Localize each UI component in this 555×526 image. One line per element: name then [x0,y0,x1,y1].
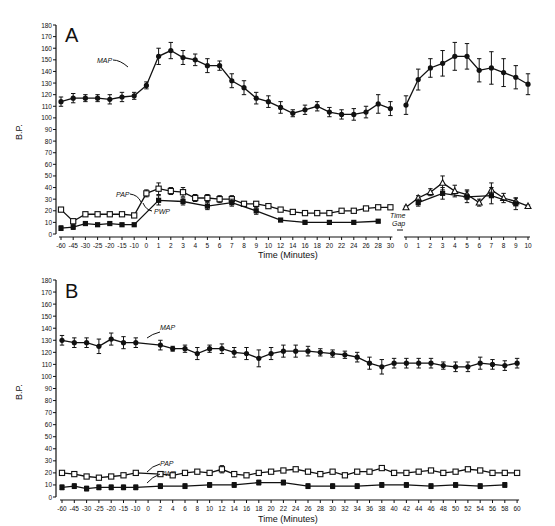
x-tick-label: 0 [146,505,150,512]
map-line [62,339,517,367]
time-gap-label-1: Time [390,212,406,219]
y-tick-label: 10 [45,481,53,488]
open-square-marker [121,473,126,478]
filled-square-marker [107,221,112,226]
x-tick-label: -15 [117,242,127,249]
filled-square-marker [182,484,187,489]
filled-circle-marker [119,94,124,99]
open-square-marker [278,207,283,212]
panel-a-pwp-label: PWP [154,208,170,215]
filled-circle-marker [452,54,457,59]
open-square-marker [290,209,295,214]
open-square-marker [305,469,310,474]
filled-square-marker [376,219,381,224]
filled-circle-marker [133,340,138,345]
x-tick-label: 24 [292,505,300,512]
filled-circle-marker [266,99,271,104]
open-square-marker [302,211,307,216]
filled-square-marker [207,482,212,487]
panel-b-chart: B B.P. Time (Minutes) MAP PAP PWP 010203… [14,277,521,525]
filled-circle-marker [229,78,234,83]
filled-circle-marker [501,70,506,75]
open-square-marker [217,197,222,202]
filled-circle-marker [219,346,224,351]
x-tick-label: -60 [57,505,67,512]
x-tick-label: 9 [254,242,258,249]
x-tick-label: 34 [354,505,362,512]
filled-square-marker [453,482,458,487]
open-square-marker [269,469,274,474]
x-tick-label: 8 [502,242,506,249]
x-tick-label: 48 [440,505,448,512]
panel-b-title: B [65,280,78,302]
open-square-marker [59,470,64,475]
x-tick-label: -45 [68,242,78,249]
filled-square-marker [84,486,89,491]
filled-circle-marker [428,65,433,70]
open-square-marker [355,469,360,474]
panel-b-xlabel: Time (Minutes) [258,514,318,524]
x-tick-label: -10 [131,505,141,512]
open-square-marker [232,471,237,476]
open-square-marker [441,470,446,475]
open-square-marker [84,474,89,479]
filled-square-marker [416,200,421,205]
panel-b-map-label: MAP [160,324,176,331]
y-tick-label: 120 [41,349,52,356]
filled-circle-marker [180,55,185,60]
filled-square-marker [132,222,137,227]
y-tick-label: 80 [45,138,53,145]
filled-circle-marker [71,96,76,101]
x-tick-label: 8 [195,505,199,512]
filled-square-marker [254,208,259,213]
x-tick-label: 9 [514,242,518,249]
filled-square-marker [180,199,185,204]
x-tick-label: -30 [81,242,91,249]
x-tick-label: 36 [366,505,374,512]
filled-circle-marker [327,109,332,114]
x-tick-label: 40 [390,505,398,512]
filled-circle-marker [109,336,114,341]
filled-square-marker [256,480,261,485]
y-tick-label: 160 [41,301,52,308]
x-tick-label: 28 [317,505,325,512]
x-tick-label: 20 [267,505,275,512]
y-tick-label: 90 [45,385,53,392]
panel-a-chart: A B.P. Time (Minutes) MAP PAP PWP Time G… [14,22,532,261]
y-tick-label: 170 [41,289,52,296]
filled-circle-marker [168,48,173,53]
open-square-marker [266,204,271,209]
x-tick-label: 38 [378,505,386,512]
filled-circle-marker [392,361,397,366]
filled-square-marker [232,482,237,487]
x-tick-label: 5 [206,242,210,249]
x-tick-label: 4 [193,242,197,249]
filled-square-marker [156,198,161,203]
y-tick-label: 160 [41,45,52,52]
y-tick-label: 120 [41,91,52,98]
filled-circle-marker [515,361,520,366]
filled-circle-marker [72,340,77,345]
y-tick-label: 170 [41,33,52,40]
x-tick-label: 14 [289,242,297,249]
filled-circle-marker [376,101,381,106]
x-tick-label: 6 [477,242,481,249]
x-tick-label: 3 [181,242,185,249]
x-tick-label: 18 [314,242,322,249]
filled-circle-marker [193,57,198,62]
filled-circle-marker [290,111,295,116]
open-square-marker [170,473,175,478]
x-tick-label: 60 [513,505,521,512]
x-tick-label: 22 [338,242,346,249]
x-tick-label: 2 [429,242,433,249]
y-tick-label: 100 [41,114,52,121]
x-tick-label: 2 [159,505,163,512]
x-tick-label: -15 [119,505,129,512]
filled-square-marker [351,220,356,225]
x-tick-label: 3 [441,242,445,249]
open-square-marker [156,186,161,191]
filled-square-marker [379,482,384,487]
x-tick-label: 46 [427,505,435,512]
open-square-marker [502,470,507,475]
filled-circle-marker [502,363,507,368]
